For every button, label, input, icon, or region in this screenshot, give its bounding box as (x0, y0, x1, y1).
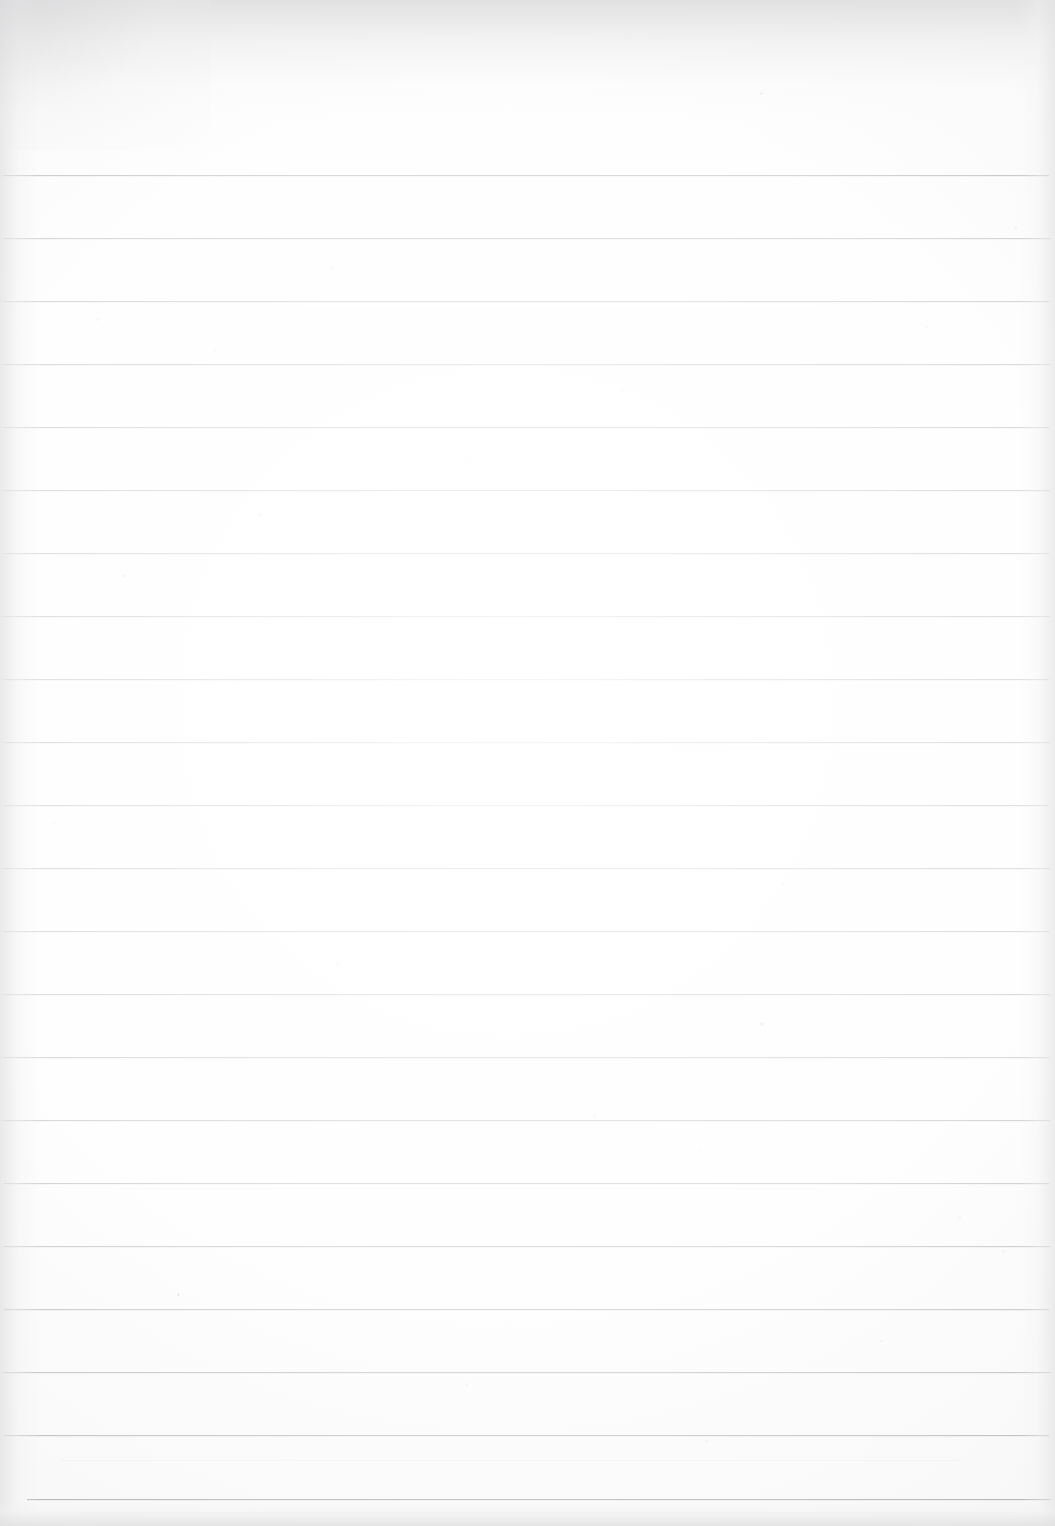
ruled-line (4, 805, 1049, 806)
paper-background (0, 0, 1055, 1526)
ruled-line (3, 1246, 1050, 1247)
ruled-line (4, 427, 1049, 428)
ruled-line (3, 616, 1050, 617)
ruled-line (4, 1309, 1049, 1310)
ruled-line (4, 1183, 1049, 1184)
ruled-line (3, 1372, 1050, 1373)
ruled-line (3, 742, 1050, 743)
ruled-line (4, 679, 1049, 680)
ruled-line (3, 994, 1050, 995)
ruled-line (4, 1435, 1049, 1436)
ruled-line (4, 301, 1049, 302)
ruled-line (4, 238, 1050, 239)
ruled-line (3, 1120, 1050, 1121)
ruled-line (27, 1499, 1050, 1500)
ruled-line (4, 553, 1049, 554)
ruled-line (3, 364, 1050, 365)
ruled-line (3, 175, 1049, 176)
ruled-line (3, 490, 1050, 491)
ruled-line (4, 1057, 1049, 1058)
scanned-page (0, 0, 1055, 1526)
ruled-line (4, 931, 1049, 932)
ruled-line (3, 868, 1050, 869)
